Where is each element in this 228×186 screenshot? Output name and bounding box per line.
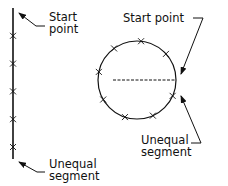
division-mark [163, 51, 169, 57]
linear-diagram: Start point Unequal segment [10, 8, 100, 183]
circle-unequal-segment-label-line2: segment [141, 145, 192, 159]
start-point-label-line2: point [49, 22, 79, 36]
start-point-leader [19, 13, 45, 26]
unequal-segment-leader [19, 162, 45, 172]
circle-start-point-label: Start point [123, 11, 185, 25]
circular-diagram: Start point Unequal segment [96, 11, 203, 159]
division-mark [170, 93, 176, 99]
division-mark [100, 97, 106, 103]
circle-start-point-leader [181, 18, 203, 74]
division-mark [150, 113, 156, 119]
measure-divide-diagram: Start point Unequal segment Start point … [0, 0, 228, 186]
unequal-segment-label-line2: segment [49, 169, 100, 183]
division-mark [111, 45, 117, 51]
